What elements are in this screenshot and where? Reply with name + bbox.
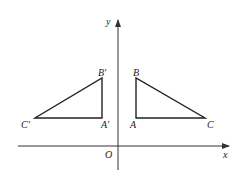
vertex-c-prime-label: C′ xyxy=(21,119,31,130)
triangle-original xyxy=(136,78,205,118)
vertex-b-prime-label: B′ xyxy=(98,67,107,78)
vertex-b-label: B xyxy=(133,67,139,78)
y-axis-label: y xyxy=(105,16,111,27)
triangle-reflected xyxy=(35,78,102,118)
vertex-a-prime-label: A′ xyxy=(100,119,110,130)
coordinate-diagram: x y O B′ A′ C′ B A C xyxy=(0,0,241,181)
origin-label: O xyxy=(105,149,112,160)
vertex-a-label: A xyxy=(129,119,137,130)
x-axis-label: x xyxy=(222,149,228,160)
vertex-c-label: C xyxy=(207,119,214,130)
